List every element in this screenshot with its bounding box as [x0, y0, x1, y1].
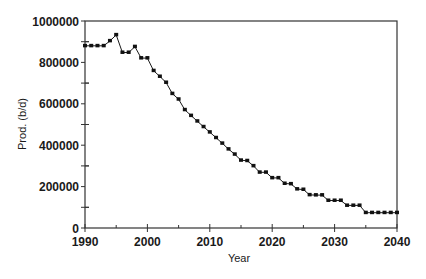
- y-tick-label: 600000: [39, 97, 79, 111]
- y-tick-label: 1000000: [32, 15, 79, 29]
- data-point-marker: [308, 193, 312, 197]
- data-point-marker: [239, 158, 243, 162]
- data-point-marker: [270, 176, 274, 180]
- data-point-marker: [127, 50, 131, 54]
- x-tick-label: 2020: [259, 235, 286, 249]
- data-point-marker: [333, 198, 337, 202]
- data-point-marker: [108, 39, 112, 43]
- data-point-marker: [301, 187, 305, 191]
- data-point-marker: [358, 203, 362, 207]
- data-point-marker: [264, 170, 268, 174]
- data-point-marker: [89, 44, 93, 48]
- data-point-marker: [320, 193, 324, 197]
- data-point-marker: [314, 193, 318, 197]
- data-point-marker: [376, 211, 380, 215]
- data-point-marker: [233, 152, 237, 156]
- data-point-marker: [170, 92, 174, 96]
- data-point-marker: [383, 211, 387, 215]
- data-point-marker: [276, 176, 280, 180]
- data-point-marker: [289, 182, 293, 186]
- x-tick-label: 2040: [384, 235, 411, 249]
- data-point-marker: [95, 44, 99, 48]
- data-point-marker: [364, 211, 368, 215]
- data-point-marker: [114, 33, 118, 37]
- data-point-marker: [102, 44, 106, 48]
- x-tick-label: 2030: [321, 235, 348, 249]
- data-point-marker: [195, 119, 199, 123]
- data-point-marker: [245, 159, 249, 163]
- data-point-marker: [164, 80, 168, 84]
- data-point-marker: [133, 45, 137, 49]
- data-point-marker: [326, 198, 330, 202]
- data-point-marker: [152, 69, 156, 73]
- data-point-marker: [214, 136, 218, 140]
- data-point-marker: [283, 181, 287, 185]
- data-point-marker: [345, 203, 349, 207]
- data-point-marker: [202, 125, 206, 129]
- y-axis-title: Prod. (b/d): [16, 98, 28, 150]
- y-tick-label: 200000: [39, 180, 79, 194]
- y-tick-label: 400000: [39, 139, 79, 153]
- data-point-marker: [389, 211, 393, 215]
- x-tick-label: 2000: [134, 235, 161, 249]
- y-axis-ticks: 02000004000006000008000001000000: [32, 15, 89, 236]
- data-point-marker: [395, 211, 399, 215]
- y-tick-label: 800000: [39, 56, 79, 70]
- plot-border: [85, 21, 397, 228]
- data-point-marker: [183, 108, 187, 112]
- production-chart: 199020002010202020302040 020000040000060…: [0, 0, 426, 279]
- x-axis-title: Year: [228, 252, 251, 264]
- chart-canvas: 199020002010202020302040 020000040000060…: [0, 0, 426, 279]
- data-point-marker: [220, 141, 224, 145]
- data-point-marker: [83, 44, 87, 48]
- x-tick-label: 1990: [72, 235, 99, 249]
- data-point-marker: [258, 170, 262, 174]
- data-point-marker: [139, 56, 143, 60]
- series-line: [85, 35, 397, 213]
- plot-frame: [85, 21, 397, 228]
- data-point-marker: [158, 74, 162, 78]
- data-point-marker: [177, 97, 181, 101]
- data-point-marker: [120, 50, 124, 54]
- data-point-marker: [339, 198, 343, 202]
- data-point-marker: [251, 164, 255, 168]
- data-point-marker: [189, 114, 193, 118]
- data-point-marker: [295, 187, 299, 191]
- data-point-marker: [227, 147, 231, 151]
- x-tick-label: 2010: [196, 235, 223, 249]
- data-point-marker: [370, 211, 374, 215]
- data-point-marker: [145, 56, 149, 60]
- data-series: [83, 33, 399, 214]
- y-tick-label: 0: [72, 222, 79, 236]
- data-point-marker: [351, 203, 355, 207]
- data-point-marker: [208, 130, 212, 134]
